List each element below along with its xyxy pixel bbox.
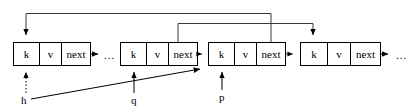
pointer-q-label: q [131, 94, 137, 106]
node-3: k v next [209, 43, 286, 66]
pointer-q: q [131, 72, 137, 106]
node-3-next-label: next [262, 48, 281, 60]
node-2: k v next [121, 43, 198, 66]
node-4-key-label: k [311, 48, 317, 60]
ellipsis-after-node-1: ... [104, 49, 115, 61]
link-diagonal-h-to-node3 [31, 69, 200, 99]
pointer-p: p [219, 72, 225, 103]
diagram-canvas: k v next k v next k v next k [0, 0, 412, 109]
pointer-h-label: h [21, 94, 27, 106]
node-1-next-label: next [67, 48, 86, 60]
node-4-value-label: v [336, 48, 342, 60]
link-back-node2-to-node4 [178, 24, 313, 43]
node-2-value-label: v [155, 48, 161, 60]
node-3-value-label: v [243, 48, 249, 60]
node-1-key-label: k [24, 48, 30, 60]
pointer-h: h [21, 72, 27, 106]
node-1: k v next [14, 43, 91, 66]
node-1-value-label: v [48, 48, 54, 60]
linked-list-diagram: k v next k v next k v next k [0, 0, 412, 109]
node-2-next-label: next [174, 48, 193, 60]
node-4: k v next [301, 43, 381, 66]
node-2-key-label: k [131, 48, 137, 60]
node-4-next-label: next [356, 48, 375, 60]
link-back-node3-to-node1 [26, 14, 271, 43]
pointer-p-label: p [219, 91, 225, 103]
ellipsis-after-node-4: ... [396, 49, 407, 61]
node-3-key-label: k [219, 48, 225, 60]
